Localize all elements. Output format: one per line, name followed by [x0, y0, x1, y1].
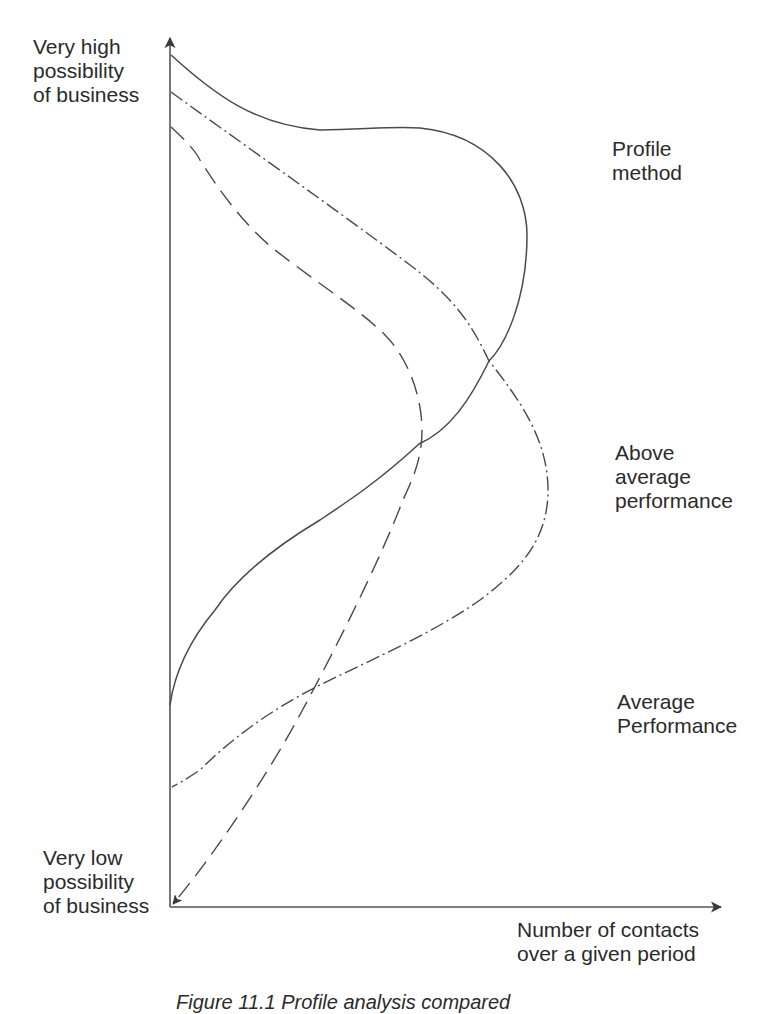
profile-method-curve: [170, 55, 527, 705]
above-average-curve: [171, 92, 548, 787]
average-performance-curve: [171, 127, 422, 904]
figure-caption: Figure 11.1 Profile analysis compared: [176, 990, 510, 1014]
y-axis-top-label: Very high possibility of business: [33, 35, 139, 107]
profile-method-label: Profile method: [612, 137, 682, 185]
average-performance-label: Average Performance: [617, 690, 737, 738]
y-axis-bottom-label: Very low possibility of business: [43, 846, 149, 918]
above-average-label: Above average performance: [615, 441, 733, 513]
x-axis-label: Number of contacts over a given period: [517, 918, 699, 966]
